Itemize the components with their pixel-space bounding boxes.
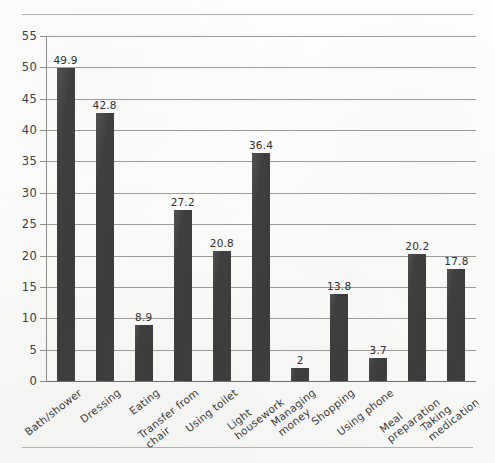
y-axis-tick-label: 30 <box>3 186 37 200</box>
y-axis-tick <box>40 256 47 257</box>
y-axis-tick <box>40 193 47 194</box>
page-top-rule <box>22 14 473 15</box>
y-axis-tick-label: 40 <box>3 123 37 137</box>
y-axis-tick <box>40 99 47 100</box>
y-axis-tick-label: 50 <box>3 60 37 74</box>
bar-value-label: 42.8 <box>93 99 117 111</box>
x-axis-category-labels: Bath/showerDressingEatingTransfer from c… <box>46 381 476 463</box>
bar[interactable] <box>408 254 426 381</box>
bar[interactable] <box>96 113 114 381</box>
y-axis-tick <box>40 161 47 162</box>
y-axis-tick <box>40 287 47 288</box>
bar-value-label: 2 <box>297 354 304 366</box>
y-axis-tick-label: 55 <box>3 29 37 43</box>
bar[interactable] <box>252 153 270 381</box>
y-axis-tick-labels: 5550454035302520151050 <box>0 0 37 463</box>
bar-value-label: 20.8 <box>210 237 234 249</box>
y-axis-tick-label: 35 <box>3 154 37 168</box>
y-axis-tick <box>40 36 47 37</box>
y-axis-tick-label: 0 <box>3 374 37 388</box>
bar[interactable] <box>369 358 387 381</box>
x-axis-category-label: Dressing <box>78 387 123 425</box>
bar-value-label: 36.4 <box>249 139 273 151</box>
y-axis-tick <box>40 224 47 225</box>
y-axis-tick-label: 20 <box>3 249 37 263</box>
bar-series: 49.942.88.927.220.836.4213.83.720.217.8 <box>46 36 476 381</box>
bar-value-label: 13.8 <box>327 280 351 292</box>
y-axis-tick <box>40 381 47 382</box>
bar-value-label: 20.2 <box>405 240 429 252</box>
y-axis-tick-label: 45 <box>3 92 37 106</box>
bar-value-label: 17.8 <box>444 255 468 267</box>
bar[interactable] <box>330 294 348 381</box>
bar-value-label: 3.7 <box>370 344 387 356</box>
bar[interactable] <box>57 68 75 381</box>
y-axis-tick-label: 10 <box>3 311 37 325</box>
bar[interactable] <box>213 251 231 381</box>
x-axis-category-label: Eating <box>127 387 162 418</box>
y-axis-tick <box>40 318 47 319</box>
bar-value-label: 8.9 <box>135 311 152 323</box>
bar[interactable] <box>174 210 192 381</box>
y-axis-tick <box>40 67 47 68</box>
y-axis-tick <box>40 350 47 351</box>
bar-value-label: 27.2 <box>171 196 195 208</box>
y-axis-tick-label: 15 <box>3 280 37 294</box>
y-axis-tick-label: 5 <box>3 343 37 357</box>
bar[interactable] <box>291 368 309 381</box>
chart-page: 5550454035302520151050 49.942.88.927.220… <box>0 0 495 463</box>
y-axis-tick <box>40 130 47 131</box>
bar[interactable] <box>135 325 153 381</box>
bar-value-label: 49.9 <box>53 54 77 66</box>
y-axis-tick-label: 25 <box>3 217 37 231</box>
bar[interactable] <box>447 269 465 381</box>
